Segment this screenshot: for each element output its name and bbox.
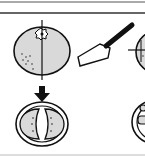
down-arrow-icon bbox=[34, 86, 50, 102]
whole-fruit-icon bbox=[14, 20, 70, 80]
top-rule bbox=[0, 2, 145, 13]
knife-icon bbox=[78, 25, 132, 66]
partial-cross-section-icon bbox=[132, 100, 145, 144]
partial-fruit-icon bbox=[128, 30, 145, 74]
halved-fruit-icon bbox=[16, 102, 68, 146]
fruit-cutting-diagram bbox=[0, 0, 145, 158]
